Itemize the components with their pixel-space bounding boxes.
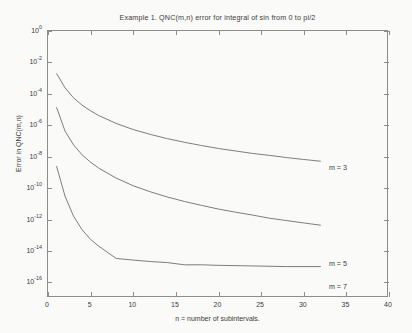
x-tick-top-35 — [346, 31, 347, 35]
x-tick-bottom-0 — [48, 292, 49, 297]
x-tick-bottom-30 — [304, 292, 305, 297]
y-tick-label--14: 10-14 — [16, 246, 42, 253]
y-tick-label-0: 100 — [16, 27, 42, 34]
x-tick-label-20: 20 — [214, 301, 222, 308]
x-tick-top-40 — [389, 31, 390, 35]
y-tick-exponent: -10 — [34, 181, 42, 187]
y-tick-label--2: 10-2 — [16, 58, 42, 65]
series-label-m3: m = 3 — [329, 163, 347, 172]
y-tick-exponent: 0 — [39, 24, 42, 30]
y-tick-left--10 — [48, 188, 52, 189]
x-tick-label-40: 40 — [384, 301, 392, 308]
y-tick-left-0 — [48, 31, 52, 32]
y-tick-right-0 — [384, 31, 389, 32]
y-tick-right--16 — [384, 282, 389, 283]
figure-canvas: Example 1. QNC(m,n) error for integral o… — [0, 0, 412, 333]
y-tick-exponent: -4 — [37, 87, 42, 93]
x-tick-label-5: 5 — [88, 301, 92, 308]
x-tick-label-10: 10 — [128, 301, 136, 308]
y-axis-title: Error in QNC(m,n) — [15, 74, 22, 214]
y-tick-label--16: 10-16 — [16, 278, 42, 285]
x-tick-label-25: 25 — [256, 301, 264, 308]
x-tick-top-20 — [219, 31, 220, 35]
y-tick-exponent: -8 — [37, 150, 42, 156]
x-axis-title: n = number of subintervals. — [47, 315, 388, 322]
x-tick-bottom-35 — [346, 292, 347, 297]
x-tick-top-30 — [304, 31, 305, 35]
x-tick-top-25 — [261, 31, 262, 35]
y-tick-left--8 — [48, 157, 52, 158]
series-group — [57, 73, 321, 266]
x-tick-top-10 — [133, 31, 134, 35]
y-tick-left--16 — [48, 282, 52, 283]
y-tick-right--10 — [384, 188, 389, 189]
x-tick-bottom-25 — [261, 292, 262, 297]
y-tick-right--4 — [384, 94, 389, 95]
x-tick-top-5 — [91, 31, 92, 35]
y-tick-right--12 — [384, 220, 389, 221]
y-tick-exponent: -14 — [34, 244, 42, 250]
y-tick-label--12: 10-12 — [16, 215, 42, 222]
y-tick-right--14 — [384, 251, 389, 252]
series-label-m5: m = 5 — [329, 259, 347, 268]
screenshot-root: Example 1. QNC(m,n) error for integral o… — [0, 0, 412, 333]
y-tick-left--14 — [48, 251, 52, 252]
y-tick-left--2 — [48, 62, 52, 63]
x-tick-bottom-15 — [176, 292, 177, 297]
x-tick-bottom-10 — [133, 292, 134, 297]
y-tick-left--12 — [48, 220, 52, 221]
x-tick-label-0: 0 — [45, 301, 49, 308]
x-tick-label-30: 30 — [299, 301, 307, 308]
y-tick-left--4 — [48, 94, 52, 95]
y-tick-exponent: -6 — [37, 118, 42, 124]
y-tick-right--6 — [384, 125, 389, 126]
y-tick-exponent: -12 — [34, 213, 42, 219]
x-tick-top-15 — [176, 31, 177, 35]
series-line-m7 — [57, 166, 321, 266]
y-tick-exponent: -16 — [34, 275, 42, 281]
chart-title: Example 1. QNC(m,n) error for integral o… — [47, 13, 388, 22]
y-tick-left--6 — [48, 125, 52, 126]
x-tick-bottom-20 — [219, 292, 220, 297]
series-line-m5 — [57, 107, 321, 225]
y-tick-mantissa: 10 — [31, 27, 39, 34]
y-tick-exponent: -2 — [37, 56, 42, 62]
series-line-m3 — [57, 73, 321, 161]
x-tick-bottom-5 — [91, 292, 92, 297]
x-tick-bottom-40 — [389, 292, 390, 297]
y-tick-right--8 — [384, 157, 389, 158]
y-tick-right--2 — [384, 62, 389, 63]
series-label-m7: m = 7 — [329, 282, 347, 291]
x-tick-label-35: 35 — [341, 301, 349, 308]
x-tick-label-15: 15 — [171, 301, 179, 308]
